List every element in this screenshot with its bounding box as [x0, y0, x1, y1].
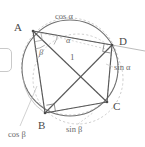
leader-sin-alpha	[106, 64, 113, 67]
vertex-label-a: A	[14, 22, 22, 33]
vertex-dot-c	[106, 101, 109, 104]
ptolemy-figure: A D C B cos α sin α sin β cos β 1 α β	[0, 0, 145, 147]
measure-label-diagonal-one: 1	[70, 53, 75, 62]
cropped-panel-stub[interactable]	[0, 48, 12, 72]
vertex-dot-a	[32, 30, 35, 33]
vertex-label-d: D	[119, 36, 127, 47]
measure-label-cos-alpha: cos α	[55, 12, 73, 21]
angle-arc-alpha	[54, 35, 58, 44]
guide-ray-a-to-d	[33, 31, 110, 50]
vertex-dot-d	[111, 44, 114, 47]
extension-line-right	[112, 45, 145, 51]
angle-label-beta: β	[39, 48, 43, 57]
vertex-label-b: B	[38, 120, 45, 131]
vertex-label-c: C	[113, 101, 120, 112]
measure-label-cos-beta: cos β	[8, 130, 26, 139]
measure-label-sin-alpha: sin α	[114, 63, 131, 72]
angle-label-alpha: α	[66, 36, 70, 45]
vertex-dot-b	[44, 112, 47, 115]
measure-label-sin-beta: sin β	[66, 125, 82, 134]
